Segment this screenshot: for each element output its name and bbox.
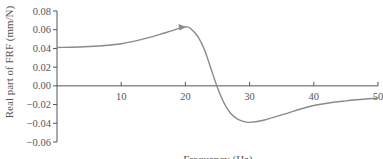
x-tick-label: 10 <box>116 91 127 102</box>
x-axis-title: Frequency (Hz) <box>183 153 253 159</box>
frf-line-chart: 0.080.060.040.020.00−0.02−0.04−0.06 1020… <box>0 0 383 159</box>
y-tick-label: 0.08 <box>33 6 51 17</box>
y-axis-title: Real part of FRF (mm/N) <box>3 5 16 118</box>
x-tick-label: 30 <box>244 91 255 102</box>
arrowhead-icon <box>178 24 186 31</box>
y-tick-label: 0.02 <box>33 62 51 73</box>
x-axis: 1020304050 <box>57 82 383 102</box>
x-tick-label: 40 <box>309 91 320 102</box>
y-tick-label: −0.02 <box>27 99 51 110</box>
y-axis: 0.080.060.040.020.00−0.02−0.04−0.06 <box>27 6 57 148</box>
y-tick-label: 0.04 <box>33 43 52 54</box>
y-tick-label: 0.06 <box>33 24 51 35</box>
x-tick-label: 50 <box>373 91 383 102</box>
x-tick-label: 20 <box>180 91 191 102</box>
y-tick-label: 0.00 <box>33 80 51 91</box>
y-tick-label: −0.04 <box>27 118 52 129</box>
y-tick-label: −0.06 <box>27 137 51 148</box>
frf-curve <box>57 27 378 123</box>
